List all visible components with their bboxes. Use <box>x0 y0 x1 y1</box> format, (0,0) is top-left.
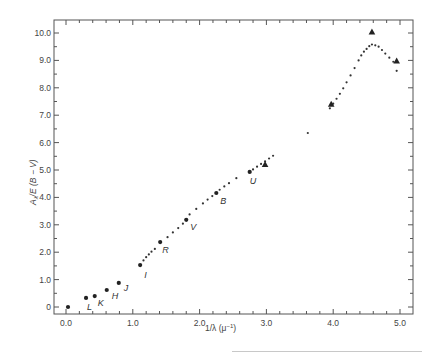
y-axis-ticks: 01.02.03.04.05.06.07.08.09.010.0 <box>34 28 413 312</box>
spectral-point <box>195 208 197 210</box>
point-labels: LKHJIRVBU <box>87 176 257 312</box>
x-axis-ticks: 0.01.02.03.04.05.0 <box>60 20 406 328</box>
band-point <box>105 288 109 292</box>
spectral-point <box>368 45 370 47</box>
spectral-point <box>342 87 344 89</box>
band-label: J <box>123 283 129 293</box>
spectral-point <box>172 231 174 233</box>
y-tick-label: 9.0 <box>39 55 51 65</box>
band-point <box>66 305 70 309</box>
spectral-point <box>166 236 168 238</box>
band-point <box>214 191 218 195</box>
y-axis-title: Aλ/E (B − V) <box>28 159 39 206</box>
spectral-point <box>223 185 225 187</box>
band-point <box>184 218 188 222</box>
spectral-point <box>207 198 209 200</box>
spectral-point <box>345 81 347 83</box>
spectral-point <box>339 93 341 95</box>
x-tick-label: 4.0 <box>327 318 339 328</box>
spectral-point <box>329 107 331 109</box>
band-point <box>84 296 88 300</box>
page-rule <box>232 351 422 352</box>
spectral-point <box>357 59 359 61</box>
band-label: R <box>162 245 169 255</box>
y-tick-label: 3.0 <box>39 220 51 230</box>
spectral-point <box>396 70 398 72</box>
band-label: V <box>190 222 197 232</box>
y-tick-label: 1.0 <box>39 275 51 285</box>
x-axis-title: 1/λ (μ−1) <box>205 323 236 333</box>
y-tick-label: 7.0 <box>39 110 51 120</box>
band-label: L <box>87 302 92 312</box>
spectral-point <box>154 248 156 250</box>
spectral-point <box>360 54 362 56</box>
spectral-point <box>202 202 204 204</box>
y-tick-label: 10.0 <box>34 28 51 38</box>
y-tick-label: 8.0 <box>39 83 51 93</box>
y-tick-label: 5.0 <box>39 165 51 175</box>
spectral-point <box>381 49 383 51</box>
spectral-point <box>256 166 258 168</box>
spectral-point <box>235 177 237 179</box>
plot-frame <box>54 20 413 314</box>
y-tick-label: 6.0 <box>39 138 51 148</box>
triangle-point <box>369 28 376 34</box>
y-tick-label: 0 <box>46 302 51 312</box>
spectral-point <box>182 223 184 225</box>
spectral-point <box>148 253 150 255</box>
band-label: K <box>98 298 105 308</box>
spectral-point <box>384 52 386 54</box>
triangle-point <box>393 57 400 63</box>
band-point <box>158 240 162 244</box>
spectral-point <box>188 213 190 215</box>
x-tick-label: 0.0 <box>60 318 72 328</box>
x-tick-label: 5.0 <box>394 318 406 328</box>
spectral-point <box>211 195 213 197</box>
band-point <box>248 170 252 174</box>
band-label: U <box>250 176 257 186</box>
x-tick-label: 3.0 <box>260 318 272 328</box>
spectral-point <box>363 51 365 53</box>
spectral-point <box>142 259 144 261</box>
x-tick-label: 1.0 <box>127 318 139 328</box>
spectral-point <box>145 256 147 258</box>
spectral-point <box>252 168 254 170</box>
spectral-point <box>219 189 221 191</box>
x-tick-label: 2.0 <box>194 318 206 328</box>
band-point <box>138 263 142 267</box>
extinction-chart: 0.01.02.03.04.05.0 01.02.03.04.05.06.07.… <box>0 0 437 359</box>
spectral-point <box>366 48 368 50</box>
band-point <box>93 294 97 298</box>
band-label: I <box>144 270 147 280</box>
band-label: H <box>112 291 119 301</box>
y-tick-label: 4.0 <box>39 192 51 202</box>
band-label: B <box>220 196 226 206</box>
spectral-point <box>349 74 351 76</box>
spectral-point <box>307 132 309 134</box>
spectral-point <box>268 157 270 159</box>
spectral-point <box>150 251 152 253</box>
spectral-point <box>272 155 274 157</box>
spectral-point <box>371 43 373 45</box>
spectral-point <box>374 44 376 46</box>
spectral-point <box>378 46 380 48</box>
y-tick-label: 2.0 <box>39 247 51 257</box>
spectral-point <box>260 163 262 165</box>
spectral-point <box>228 182 230 184</box>
spectral-point <box>353 67 355 69</box>
data-points <box>66 28 400 309</box>
triangle-point <box>262 161 269 167</box>
band-point <box>117 281 121 285</box>
spectral-point <box>335 98 337 100</box>
spectral-point <box>388 57 390 59</box>
spectral-point <box>177 227 179 229</box>
